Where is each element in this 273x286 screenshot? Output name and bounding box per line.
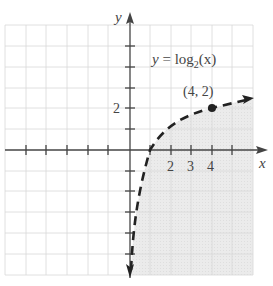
graph-canvas: y x 2 2 3 4 (4, 2) y = log2(x) xyxy=(0,0,273,286)
function-label-eq: = log xyxy=(159,51,195,67)
x-tick-label-3: 3 xyxy=(187,159,194,174)
x-tick-label-4: 4 xyxy=(207,159,214,174)
x-tick-label-2: 2 xyxy=(167,159,174,174)
point-4-2 xyxy=(208,104,216,112)
log-graph: y x 2 2 3 4 (4, 2) y = log2(x) xyxy=(0,0,273,286)
function-label-y: y xyxy=(150,51,159,67)
shaded-region xyxy=(131,98,253,275)
point-label: (4, 2) xyxy=(183,84,214,100)
function-label-arg: (x) xyxy=(199,51,217,68)
y-axis-label: y xyxy=(113,9,122,25)
x-axis-label: x xyxy=(258,155,266,171)
y-tick-label-2: 2 xyxy=(113,101,120,116)
